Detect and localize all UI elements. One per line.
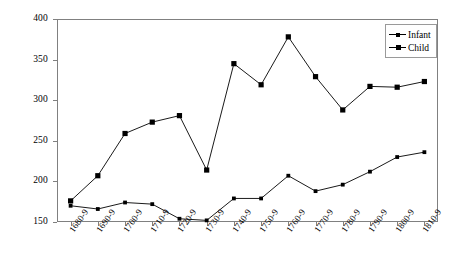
legend-label-infant: Infant xyxy=(408,30,431,40)
y-tick-label: 350 xyxy=(22,55,48,65)
y-tick-mark xyxy=(53,60,57,61)
y-tick-mark xyxy=(53,19,57,20)
y-tick-label: 250 xyxy=(22,136,48,146)
y-tick-label: 200 xyxy=(22,176,48,186)
legend-label-child: Child xyxy=(408,43,429,53)
y-tick-mark xyxy=(53,100,57,101)
y-tick-label: 400 xyxy=(22,14,48,24)
chart-root: 150200250300350400 1680-91690-91700-9171… xyxy=(0,0,459,273)
legend-marker-infant-icon xyxy=(389,30,406,39)
y-tick-mark xyxy=(53,222,57,223)
y-tick-label: 300 xyxy=(22,95,48,105)
y-tick-mark xyxy=(53,141,57,142)
chart-legend: Infant Child xyxy=(385,24,437,58)
legend-marker-child-icon xyxy=(389,43,406,52)
y-tick-label: 150 xyxy=(22,217,48,227)
plot-area xyxy=(57,19,438,222)
legend-item-infant[interactable]: Infant xyxy=(389,28,431,41)
y-tick-mark xyxy=(53,181,57,182)
legend-item-child[interactable]: Child xyxy=(389,41,431,54)
